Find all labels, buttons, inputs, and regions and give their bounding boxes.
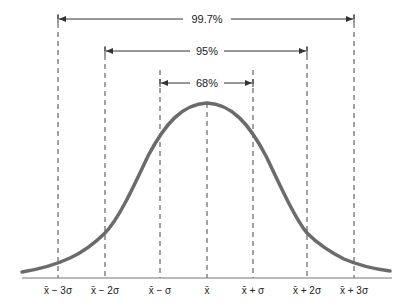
- tick-label-plus-2sigma: x̄ + 2σ: [293, 285, 322, 296]
- tick-label-minus-1sigma: x̄ − σ: [149, 285, 172, 296]
- interval-label-68: 68%: [196, 77, 218, 89]
- tick-label-minus-2sigma: x̄ − 2σ: [91, 285, 120, 296]
- interval-label-95: 95%: [196, 45, 218, 57]
- normal-curve: [22, 103, 390, 272]
- x-axis-tick-labels: x̄ − 3σ x̄ − 2σ x̄ − σ x̄ x̄ + σ x̄ + 2σ…: [44, 285, 369, 296]
- tick-label-plus-1sigma: x̄ + σ: [242, 285, 265, 296]
- tick-label-minus-3sigma: x̄ − 3σ: [44, 285, 73, 296]
- normal-distribution-diagram: 99.7% 95% 68% x̄ − 3σ x̄ − 2σ x̄ − σ x̄ …: [0, 0, 414, 307]
- tick-label-plus-3sigma: x̄ + 3σ: [340, 285, 369, 296]
- interval-label-997: 99.7%: [191, 13, 222, 25]
- tick-label-mean: x̄: [205, 285, 210, 296]
